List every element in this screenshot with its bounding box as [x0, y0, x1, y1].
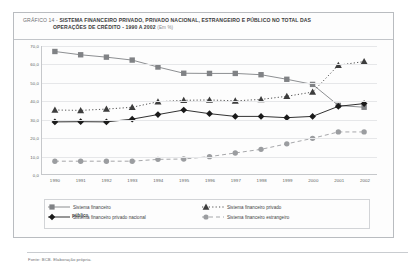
diamond-marker-icon: [47, 213, 71, 221]
y-axis-tick-label: 60,0: [30, 62, 39, 67]
data-point-triangle: [51, 107, 58, 113]
series-diamond: [52, 100, 368, 125]
x-axis-tick-label: 1999: [282, 178, 292, 183]
x-axis-tick-label: 2002: [360, 178, 370, 183]
chart-title-text-2: OPERAÇÕES DE CRÉDITO - 1990 A 2002: [53, 24, 156, 30]
legend-item-sistema-financeiro[interactable]: Sistema financeiro: [47, 203, 111, 211]
x-axis-tick-label: 2001: [334, 178, 344, 183]
data-point-circle: [258, 147, 263, 152]
y-axis-tick-label: 50,0: [30, 80, 39, 85]
x-axis-tick-label: 2000: [308, 178, 318, 183]
data-point-circle: [233, 150, 238, 155]
legend-label-3: Sistema financeiro estrangeiro: [227, 215, 289, 220]
data-point-square: [284, 77, 289, 82]
legend-item-estrangeiro[interactable]: Sistema financeiro estrangeiro: [201, 213, 289, 221]
series-circle: [52, 129, 367, 164]
circle-marker-icon: [201, 213, 225, 221]
data-point-circle: [78, 159, 83, 164]
y-axis-tick-label: 10,0: [30, 154, 39, 159]
x-axis-tick-label: 1990: [50, 178, 60, 183]
data-point-diamond: [206, 110, 213, 117]
gridline: [42, 46, 377, 47]
data-point-triangle: [103, 106, 110, 112]
y-axis-tick-label: 20,0: [30, 136, 39, 141]
data-point-square: [258, 72, 263, 77]
x-axis-tick-label: 1991: [76, 178, 86, 183]
x-axis-tick-label: 1996: [205, 178, 215, 183]
data-point-triangle: [129, 104, 136, 110]
footer-divider: [27, 252, 408, 253]
data-point-square: [207, 71, 212, 76]
legend-item-privado[interactable]: Sistema financeiro privado: [201, 203, 281, 211]
y-axis-tick-label: 30,0: [30, 117, 39, 122]
x-axis-tick-label: 1997: [231, 178, 241, 183]
data-point-diamond: [180, 107, 187, 114]
data-point-triangle: [361, 58, 368, 64]
data-point-diamond: [155, 111, 162, 118]
data-point-circle: [130, 159, 135, 164]
series-triangle: [51, 58, 367, 113]
data-point-square: [233, 71, 238, 76]
legend-label-2: Sistema financeiro privado: [227, 205, 281, 210]
gridline: [42, 138, 377, 139]
x-axis-tick-label: 1995: [179, 178, 189, 183]
gridline: [42, 120, 377, 121]
legend-item-privado-nacional[interactable]: Sistema financeiro privado nacional: [47, 213, 146, 221]
y-axis-tick-label: 0,0: [33, 173, 39, 178]
chart-title-line-1: GRÁFICO 14 - SISTEMA FINANCEIRO PRIVADO,…: [23, 17, 384, 24]
chart-legend: Sistema financeiro Sistema financeiro pr…: [47, 202, 367, 228]
gridline: [42, 83, 377, 84]
chart-title-text-1: SISTEMA FINANCEIRO PRIVADO, PRIVADO NACI…: [59, 17, 311, 23]
y-axis-tick-label: 40,0: [30, 99, 39, 104]
data-point-square: [104, 54, 109, 59]
chart-title-line-2: OPERAÇÕES DE CRÉDITO - 1990 A 2002 (Em %…: [23, 24, 384, 32]
gridline: [42, 101, 377, 102]
legend-overlap-text: público: [72, 213, 88, 218]
x-axis-tick-label: 1998: [257, 178, 267, 183]
x-axis-tick-label: 1992: [102, 178, 112, 183]
data-point-circle: [52, 159, 57, 164]
chart-unit: (Em %): [157, 25, 173, 30]
data-point-square: [52, 49, 57, 54]
y-axis-tick-label: 70,0: [30, 44, 39, 49]
chart-label: GRÁFICO 14 -: [23, 17, 59, 23]
data-point-square: [130, 57, 135, 62]
data-point-square: [78, 52, 83, 57]
legend-label-0: Sistema financeiro: [73, 205, 111, 210]
chart-source-note: Fonte: BCB. Elaboração própria.: [28, 257, 92, 262]
data-point-circle: [336, 129, 341, 134]
data-point-triangle: [309, 89, 316, 95]
data-point-triangle: [283, 93, 290, 99]
square-marker-icon: [47, 203, 71, 211]
x-axis-tick-label: 1994: [153, 178, 163, 183]
data-point-circle: [284, 141, 289, 146]
chart-title-bar: GRÁFICO 14 - SISTEMA FINANCEIRO PRIVADO,…: [14, 13, 393, 40]
gridline: [42, 64, 377, 65]
gridline: [42, 157, 377, 158]
data-point-square: [181, 71, 186, 76]
chart-figure: GRÁFICO 14 - SISTEMA FINANCEIRO PRIVADO,…: [13, 12, 394, 238]
data-point-circle: [104, 159, 109, 164]
plot-area: 0,010,020,030,040,050,060,070,0199019911…: [41, 46, 377, 175]
triangle-marker-icon: [201, 203, 225, 211]
plot-area-wrapper: 0,010,020,030,040,050,060,070,0199019911…: [14, 40, 393, 200]
series-line: [55, 62, 364, 111]
x-axis-tick-label: 1993: [127, 178, 137, 183]
data-point-circle: [361, 129, 366, 134]
